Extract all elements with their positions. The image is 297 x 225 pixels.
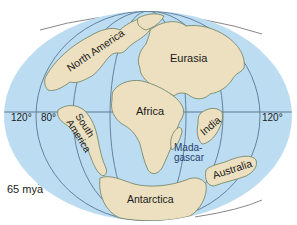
paleogeographic-map: North America Eurasia Africa South Ameri… — [0, 0, 297, 225]
label-africa: Africa — [136, 105, 165, 117]
label-antarctica: Antarctica — [127, 193, 174, 205]
longitude-left-80: 80° — [41, 112, 56, 123]
time-caption: 65 mya — [7, 183, 43, 195]
longitude-right-120: 120° — [262, 112, 283, 123]
label-madagascar-2: gascar — [174, 152, 205, 163]
label-eurasia: Eurasia — [170, 52, 208, 64]
longitude-left-120: 120° — [11, 112, 32, 123]
